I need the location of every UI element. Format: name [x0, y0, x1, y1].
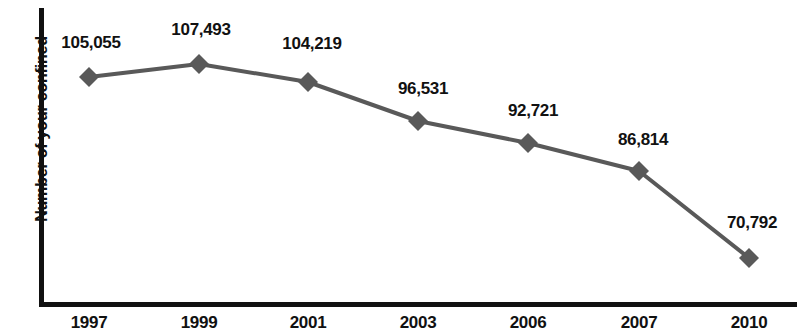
line-chart: Number of your confined 105,055107,49310…: [0, 0, 797, 333]
x-axis-tick-label: 1999: [181, 313, 218, 333]
x-axis-line: [39, 302, 797, 307]
data-point-marker: [79, 67, 99, 87]
x-axis-tick-label: 2006: [510, 313, 547, 333]
data-point-marker: [298, 72, 318, 92]
x-axis-tick-label: 2010: [731, 313, 768, 333]
data-point-marker: [189, 54, 209, 74]
data-point-marker: [518, 133, 538, 153]
data-point-marker: [739, 248, 759, 268]
data-point-marker: [629, 161, 649, 181]
data-value-label: 104,219: [282, 34, 341, 54]
data-value-label: 105,055: [61, 33, 120, 53]
data-value-label: 70,792: [727, 213, 777, 233]
x-axis-tick-label: 2001: [290, 313, 327, 333]
data-value-label: 86,814: [618, 130, 668, 150]
x-axis-tick-label: 2007: [621, 313, 658, 333]
data-value-label: 107,493: [171, 20, 230, 40]
y-axis-title: Number of your confined: [33, 19, 51, 239]
data-value-label: 92,721: [508, 101, 558, 121]
x-axis-tick-label: 2003: [400, 313, 437, 333]
data-value-label: 96,531: [398, 79, 448, 99]
data-point-marker: [408, 111, 428, 131]
x-axis-tick-label: 1997: [71, 313, 108, 333]
